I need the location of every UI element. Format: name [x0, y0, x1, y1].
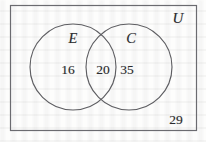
- count-e-only: 16: [61, 63, 75, 77]
- set-label-e: E: [69, 31, 78, 46]
- venn-diagram-figure: U E C 16 20 35 29: [0, 0, 206, 142]
- count-outside: 29: [169, 113, 183, 127]
- set-label-c: C: [126, 31, 136, 46]
- universal-set-label: U: [173, 11, 184, 26]
- count-c-only: 35: [120, 63, 134, 77]
- count-intersection: 20: [96, 63, 110, 77]
